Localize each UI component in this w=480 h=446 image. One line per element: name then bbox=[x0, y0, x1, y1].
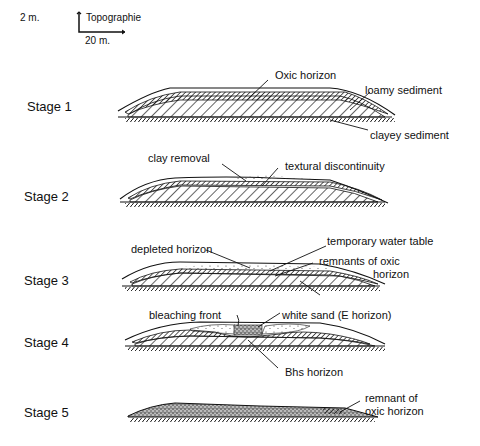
remnant-oxic-label-line2: oxic horizon bbox=[365, 405, 424, 417]
temporary-water-table-label: temporary water table bbox=[327, 235, 433, 247]
textural-discontinuity-label: textural discontinuity bbox=[285, 160, 385, 172]
clayey-sediment-label: clayey sediment bbox=[370, 129, 449, 141]
oxic-horizon-label: Oxic horizon bbox=[275, 69, 336, 81]
stage-4-label: Stage 4 bbox=[24, 335, 69, 350]
remnant-oxic-label-line1: remnant of bbox=[365, 392, 418, 404]
scale-horizontal-label: 20 m. bbox=[85, 35, 110, 46]
scale-caption: Topographie bbox=[86, 12, 141, 23]
stage-4-profile bbox=[125, 313, 385, 368]
stage-5-label: Stage 5 bbox=[24, 405, 69, 420]
scale-vertical-label: 2 m. bbox=[20, 12, 39, 23]
depleted-horizon-label: depleted horizon bbox=[131, 243, 212, 255]
stage-3-label: Stage 3 bbox=[24, 273, 69, 288]
cross-section-diagram bbox=[0, 0, 480, 446]
white-sand-label: white sand (E horizon) bbox=[282, 309, 391, 321]
remnants-oxic-label-line1: remnants of oxic bbox=[319, 255, 400, 267]
stage-2-label: Stage 2 bbox=[24, 189, 69, 204]
stage-1-profile bbox=[118, 80, 395, 130]
clay-removal-label: clay removal bbox=[148, 152, 210, 164]
bleaching-front-label: bleaching front bbox=[149, 309, 221, 321]
stage-5-profile bbox=[128, 401, 378, 422]
bhs-horizon-label: Bhs horizon bbox=[285, 366, 343, 378]
stage-1-label: Stage 1 bbox=[27, 99, 72, 114]
remnants-oxic-label-line2: horizon bbox=[373, 268, 409, 280]
loamy-sediment-label: loamy sediment bbox=[365, 84, 442, 96]
